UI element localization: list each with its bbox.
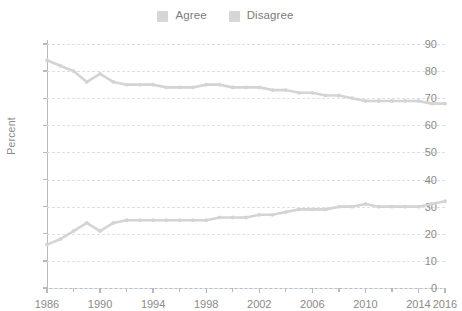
legend-label-agree: Agree [175, 10, 206, 22]
data-point-marker [151, 83, 155, 87]
gridline-horizontal [47, 288, 445, 289]
data-point-marker [125, 218, 129, 222]
data-point-marker [244, 85, 248, 89]
data-point-marker [257, 213, 261, 217]
data-point-marker [85, 221, 89, 225]
x-tick-mark [391, 288, 392, 292]
x-tick-mark-major [46, 288, 47, 293]
x-tick-label: 2006 [282, 298, 342, 310]
series-layer [47, 44, 445, 288]
x-tick-label: 2016 [415, 298, 462, 310]
data-point-marker [98, 72, 102, 76]
data-point-marker [244, 216, 248, 220]
data-point-marker [271, 213, 275, 217]
data-point-marker [231, 216, 235, 220]
data-point-marker [98, 229, 102, 233]
data-point-marker [218, 216, 222, 220]
data-point-marker [310, 207, 314, 211]
x-tick-mark [338, 288, 339, 292]
legend-label-disagree: Disagree [247, 10, 294, 22]
data-point-marker [204, 83, 208, 87]
data-point-marker [403, 205, 407, 209]
data-point-marker [337, 94, 341, 98]
data-point-marker [72, 69, 76, 73]
data-point-marker [72, 229, 76, 233]
y-axis-title: Percent [5, 101, 17, 171]
square-swatch-icon [157, 11, 168, 22]
data-point-marker [218, 83, 222, 87]
data-point-marker [364, 99, 368, 103]
x-tick-mark [232, 288, 233, 292]
data-point-marker [297, 207, 301, 211]
data-point-marker [297, 91, 301, 95]
data-point-marker [324, 94, 328, 98]
data-point-marker [165, 85, 169, 89]
x-tick-mark [126, 288, 127, 292]
data-point-marker [377, 205, 381, 209]
x-tick-label: 1990 [70, 298, 130, 310]
data-point-marker [443, 102, 447, 106]
x-tick-label: 2010 [335, 298, 395, 310]
series-line-agree [47, 60, 445, 103]
data-point-marker [417, 205, 421, 209]
data-point-marker [430, 102, 434, 106]
data-point-marker [191, 218, 195, 222]
x-tick-mark [73, 288, 74, 292]
data-point-marker [58, 237, 62, 241]
data-point-marker [138, 83, 142, 87]
x-tick-mark-major [312, 288, 313, 293]
square-swatch-icon [229, 11, 240, 22]
data-point-marker [257, 85, 261, 89]
data-point-marker [390, 99, 394, 103]
data-point-marker [191, 85, 195, 89]
series-line-disagree [47, 201, 445, 244]
data-point-marker [85, 80, 89, 84]
legend-item-disagree[interactable]: Disagree [229, 10, 294, 22]
x-tick-label: 1998 [176, 298, 236, 310]
data-point-marker [443, 199, 447, 203]
data-point-marker [204, 218, 208, 222]
data-point-marker [138, 218, 142, 222]
x-tick-mark [285, 288, 286, 292]
chart-legend: Agree Disagree [0, 4, 451, 28]
data-point-marker [45, 58, 49, 62]
x-tick-mark-major [206, 288, 207, 293]
x-tick-mark [179, 288, 180, 292]
x-tick-mark-major [418, 288, 419, 293]
data-point-marker [58, 64, 62, 68]
data-point-marker [310, 91, 314, 95]
x-tick-label: 2002 [229, 298, 289, 310]
data-point-marker [403, 99, 407, 103]
data-point-marker [350, 96, 354, 100]
x-tick-label: 1994 [123, 298, 183, 310]
x-tick-label: 1986 [17, 298, 77, 310]
data-point-marker [417, 99, 421, 103]
data-point-marker [178, 218, 182, 222]
data-point-marker [231, 85, 235, 89]
data-point-marker [430, 202, 434, 206]
data-point-marker [178, 85, 182, 89]
x-tick-mark-major [152, 288, 153, 293]
data-point-marker [284, 210, 288, 214]
data-point-marker [271, 88, 275, 92]
legend-item-agree[interactable]: Agree [157, 10, 206, 22]
x-tick-mark-major [99, 288, 100, 293]
data-point-marker [324, 207, 328, 211]
plot-area: 0102030405060708090198619901994199820022… [47, 44, 445, 288]
x-tick-mark-major [444, 288, 445, 293]
data-point-marker [45, 243, 49, 247]
data-point-marker [364, 202, 368, 206]
data-point-marker [125, 83, 129, 87]
data-point-marker [350, 205, 354, 209]
data-point-marker [284, 88, 288, 92]
x-tick-mark-major [259, 288, 260, 293]
data-point-marker [165, 218, 169, 222]
x-tick-mark-major [365, 288, 366, 293]
data-point-marker [111, 80, 115, 84]
data-point-marker [390, 205, 394, 209]
data-point-marker [377, 99, 381, 103]
data-point-marker [151, 218, 155, 222]
data-point-marker [337, 205, 341, 209]
data-point-marker [111, 221, 115, 225]
